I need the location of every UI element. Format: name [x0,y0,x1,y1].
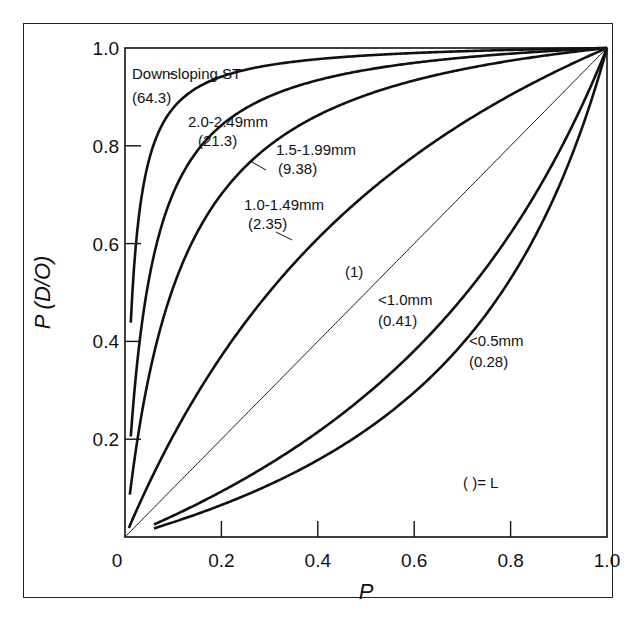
x-tick-label: 0.6 [401,550,427,571]
x-tick-label: 0.8 [497,550,523,571]
x-tick-label: 0.2 [208,550,234,571]
y-tick-label: 0.6 [93,234,119,255]
y-axis-title: P (D/O) [30,256,55,330]
likelihood-ratio-chart: 00.20.40.60.81.00.20.40.60.81.0PP (D/O) … [0,0,643,631]
leader-line [252,162,266,170]
curve-label: 1.0-1.49mm [244,196,324,213]
curve-l-value: (1) [345,263,363,280]
y-tick-label: 0.8 [93,136,119,157]
curve-label: 2.0-2.49mm [188,113,268,130]
curve-l-value: (21.3) [198,132,237,149]
curve-l-value: (9.38) [278,160,317,177]
x-tick-label: 0 [112,550,123,571]
curve-label: 1.5-1.99mm [276,141,356,158]
axes: 00.20.40.60.81.00.20.40.60.81.0PP (D/O) [30,38,620,604]
curve-l-value: (2.35) [248,215,287,232]
curve-label: Downsloping ST [132,65,241,82]
x-tick-label: 0.4 [305,550,332,571]
legend-note: ( )= L [463,474,498,491]
curve-l-value: (0.41) [378,312,417,329]
curve-l-value: (64.3) [132,89,171,106]
curve-labels: Downsloping ST(64.3)2.0-2.49mm(21.3)1.5-… [132,65,524,491]
y-tick-label: 0.4 [93,331,120,352]
curve-2-0-2-49mm [131,48,607,436]
curve-l-value: (0.28) [469,353,508,370]
y-tick-label: 0.2 [93,429,119,450]
x-axis-title: P [359,579,374,604]
curve-label: <1.0mm [378,291,433,308]
curve-downsloping-st [131,48,607,323]
leader-line [276,232,292,240]
y-tick-label: 1.0 [93,38,119,59]
x-tick-label: 1.0 [594,550,620,571]
curve-label: <0.5mm [469,332,524,349]
